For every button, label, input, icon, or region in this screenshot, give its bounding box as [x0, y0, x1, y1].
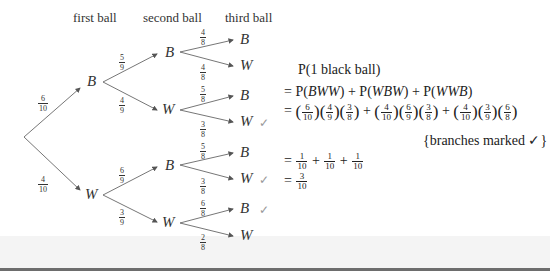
node-l1-b: B — [87, 73, 96, 90]
node-l3-wwb: B — [240, 200, 249, 217]
node-l3-wbw: W — [240, 170, 253, 187]
node-l3-bww: W — [240, 113, 253, 130]
calc-note: {branches marked ✓} — [423, 132, 547, 149]
header-first-ball: first ball — [73, 10, 117, 26]
node-l3-bwb: B — [240, 87, 249, 104]
node-l2-bb: B — [165, 44, 174, 61]
header-second-ball: second ball — [143, 10, 202, 26]
calc-products: = (610)(49)(38) + (410)(69)(38) + (410)(… — [284, 102, 517, 122]
prob-l3-bbw: 48 — [200, 63, 206, 82]
prob-l2-bb: 59 — [119, 53, 125, 72]
prob-l1-b: 610 — [38, 94, 48, 113]
prob-l2-bw: 49 — [119, 96, 125, 115]
check-mark-icon: ✓ — [259, 173, 269, 188]
prob-l1-w: 410 — [38, 175, 48, 194]
node-l3-bbb: B — [240, 31, 249, 48]
node-l2-bw: W — [162, 101, 175, 118]
calc-sum-of-paths: = P(BWW) + P(WBW) + P(WWB) — [284, 84, 472, 100]
prob-l3-bbb: 48 — [200, 28, 206, 47]
header-third-ball: third ball — [225, 10, 272, 26]
prob-l3-www: 28 — [200, 233, 206, 252]
node-l3-bbw: W — [240, 57, 253, 74]
prob-l3-wbb: 58 — [200, 142, 206, 161]
node-l3-wbb: B — [240, 144, 249, 161]
prob-l2-wb: 69 — [119, 166, 125, 185]
calc-result: = 310 — [284, 172, 308, 191]
check-mark-icon: ✓ — [259, 116, 269, 131]
check-mark-icon: ✓ — [259, 203, 269, 218]
node-l2-ww: W — [162, 214, 175, 231]
prob-l3-bww: 38 — [200, 120, 206, 139]
prob-l3-wbw: 38 — [200, 177, 206, 196]
prob-l3-wwb: 68 — [200, 199, 206, 218]
node-l1-w: W — [85, 186, 98, 203]
node-l3-www: W — [240, 227, 253, 244]
prob-l3-bwb: 58 — [200, 85, 206, 104]
bottom-band — [0, 236, 550, 268]
calc-simplified-sum: = 110 + 110 + 110 — [284, 152, 364, 171]
node-l2-wb: B — [165, 157, 174, 174]
prob-l2-ww: 39 — [119, 208, 125, 227]
calc-title: P(1 black ball) — [298, 62, 380, 78]
